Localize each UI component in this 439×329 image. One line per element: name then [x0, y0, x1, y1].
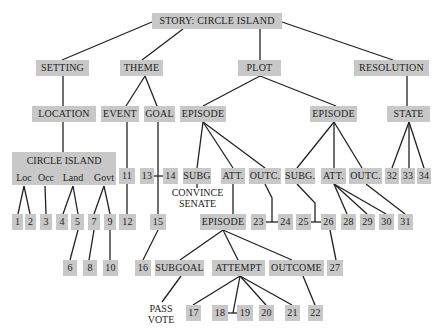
resolution-node: RESOLUTION [354, 60, 429, 76]
number-11: 11 [119, 168, 135, 184]
number-18: 18 [212, 305, 228, 321]
convince-senate-annotation: CONVINCE SENATE [170, 186, 225, 211]
number-34: 34 [417, 168, 431, 184]
number-32: 32 [385, 168, 399, 184]
episode-left-node: EPISODE [180, 106, 226, 122]
subg-right-node: SUBG. [285, 168, 315, 184]
number-5: 5 [71, 214, 84, 230]
subg-left-node: SUBG [183, 168, 211, 184]
number-13: 13 [140, 168, 154, 184]
number-8: 8 [83, 260, 97, 276]
number-29: 29 [360, 214, 375, 230]
attempt-node: ATTEMPT [212, 260, 265, 276]
number-23: 23 [251, 214, 266, 230]
number-1: 1 [12, 214, 23, 230]
setting-node: SETTING [36, 60, 89, 76]
number-9: 9 [104, 214, 116, 230]
subgoal-node: SUBGOAL [155, 260, 204, 276]
plot-node: PLOT [238, 60, 281, 76]
circle-island-title: CIRCLE ISLAND [12, 155, 116, 166]
outc-left-node: OUTC. [249, 168, 281, 184]
number-16: 16 [135, 260, 151, 276]
number-26: 26 [321, 214, 336, 230]
number-24: 24 [278, 214, 293, 230]
number-12: 12 [119, 214, 136, 230]
number-25: 25 [296, 214, 311, 230]
number-19: 19 [237, 305, 253, 321]
event-node: EVENT [101, 106, 139, 122]
number-21: 21 [285, 305, 300, 321]
number-6: 6 [63, 260, 77, 276]
annotation-line-2: VOTE [143, 313, 179, 327]
number-33: 33 [401, 168, 415, 184]
number-22: 22 [308, 305, 323, 321]
number-15: 15 [150, 214, 166, 230]
number-31: 31 [398, 214, 413, 230]
pass-vote-annotation: PASS VOTE [143, 302, 179, 327]
number-7: 7 [88, 214, 100, 230]
story-root-node: STORY: CIRCLE ISLAND [152, 13, 282, 29]
number-30: 30 [379, 214, 394, 230]
number-14: 14 [163, 168, 178, 184]
att-right-node: ATT. [321, 168, 346, 184]
nested-episode-node: EPISODE [200, 214, 246, 230]
number-2: 2 [25, 214, 36, 230]
number-3: 3 [40, 214, 52, 230]
number-20: 20 [259, 305, 274, 321]
theme-node: THEME [120, 60, 163, 76]
number-4: 4 [56, 214, 68, 230]
state-node: STATE [387, 106, 430, 122]
number-10: 10 [103, 260, 118, 276]
attr-govt: Govt [92, 172, 116, 183]
attr-land: Land [61, 172, 85, 183]
outcome-node: OUTCOME [269, 260, 324, 276]
attr-loc: Loc [14, 172, 34, 183]
episode-right-node: EPISODE [310, 106, 357, 122]
att-left-node: ATT. [221, 168, 245, 184]
attr-occ: Occ [36, 172, 56, 183]
number-27: 27 [327, 260, 343, 276]
outc-right-node: OUTC. [349, 168, 382, 184]
number-28: 28 [341, 214, 356, 230]
location-node: LOCATION [32, 106, 96, 122]
goal-node: GOAL [144, 106, 175, 122]
number-17: 17 [186, 305, 201, 321]
